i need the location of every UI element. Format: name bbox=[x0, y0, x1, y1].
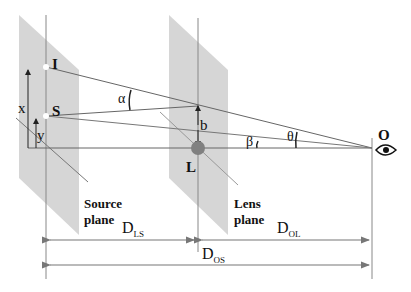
lens-mass bbox=[191, 141, 205, 155]
distance-ls-label: DLS bbox=[122, 220, 144, 239]
distance-os-sub: OS bbox=[214, 255, 226, 265]
impact-b-label: b bbox=[200, 118, 208, 133]
distance-ol-label: DOL bbox=[277, 220, 301, 239]
distance-ol-sub: OL bbox=[289, 229, 301, 239]
lens-plane-line1: Lens bbox=[234, 196, 264, 212]
distance-ls-sub: LS bbox=[134, 229, 145, 239]
source-plane-label: Source plane bbox=[84, 196, 122, 228]
source-plane-line1: Source bbox=[84, 196, 122, 212]
lens-label: L bbox=[186, 160, 196, 175]
source-plane-line2: plane bbox=[84, 212, 122, 228]
observer-label: O bbox=[378, 128, 390, 143]
alpha-label: α bbox=[118, 92, 125, 106]
lens-plane-line2: plane bbox=[234, 212, 264, 228]
beta-label: β bbox=[246, 135, 253, 149]
source-label: S bbox=[52, 104, 60, 119]
distance-os-main: D bbox=[202, 245, 214, 262]
lens-plane-label: Lens plane bbox=[234, 196, 264, 228]
eye-icon bbox=[376, 145, 396, 155]
distance-os-label: DOS bbox=[202, 246, 225, 265]
distance-ol-main: D bbox=[277, 219, 289, 236]
image-label: I bbox=[52, 57, 58, 72]
theta-label: θ bbox=[287, 130, 294, 144]
lensing-diagram: I S L O x y b α β θ Source plane Lens pl… bbox=[0, 0, 411, 292]
height-x-label: x bbox=[18, 101, 26, 116]
height-y-label: y bbox=[37, 128, 45, 143]
distance-ls-main: D bbox=[122, 219, 134, 236]
